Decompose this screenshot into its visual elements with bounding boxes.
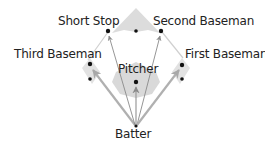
dot-second-baseman [159, 29, 163, 33]
dot-first-base [180, 77, 184, 81]
dot-pitcher [134, 80, 138, 84]
label-second-baseman: Second Baseman [153, 14, 254, 28]
label-short-stop: Short Stop [58, 14, 119, 28]
dot-first-baseman [180, 63, 184, 67]
label-third-baseman: Third Baseman [14, 47, 102, 61]
label-pitcher: Pitcher [118, 62, 158, 76]
label-batter: Batter [115, 127, 151, 141]
dot-third-base [88, 77, 92, 81]
infield-outline-right [162, 32, 183, 58]
dot-third-baseman [88, 62, 92, 66]
dot-second-base [134, 29, 138, 33]
label-first-baseman: First Baseman [185, 47, 265, 61]
dot-short-stop [106, 29, 110, 33]
